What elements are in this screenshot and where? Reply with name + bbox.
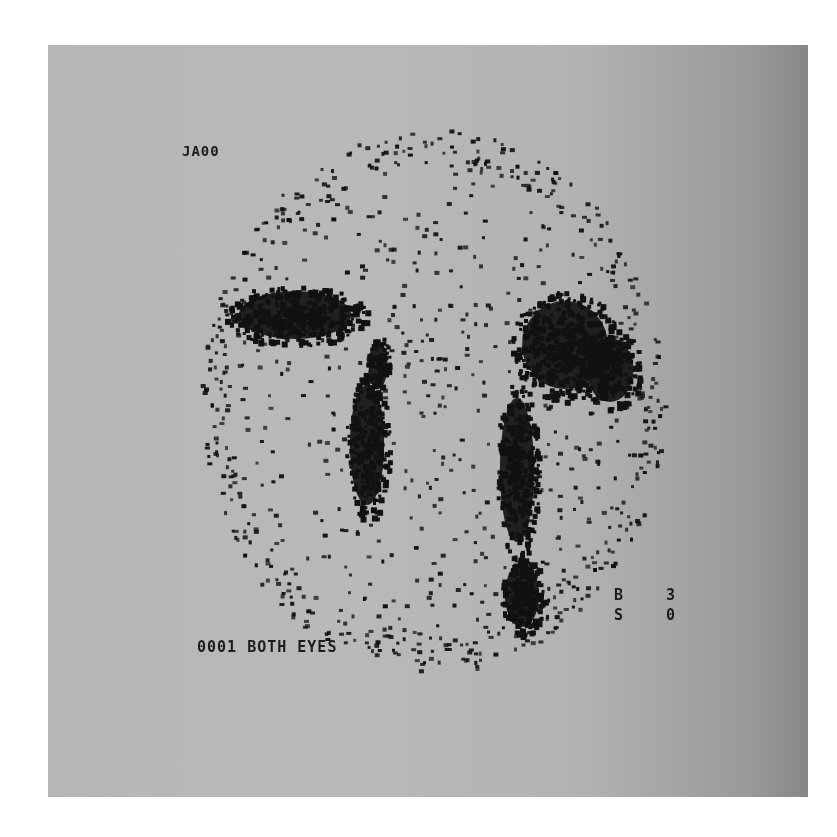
s-value: 0 xyxy=(666,606,676,624)
s-label: S xyxy=(614,606,624,624)
b-label: B xyxy=(614,586,624,604)
study-label: 0001 BOTH EYES xyxy=(197,638,337,656)
count-dots xyxy=(201,130,669,674)
patient-id-label: JA00 xyxy=(182,143,220,159)
b-value: 3 xyxy=(666,586,676,604)
scintigraphy-image xyxy=(0,0,837,837)
